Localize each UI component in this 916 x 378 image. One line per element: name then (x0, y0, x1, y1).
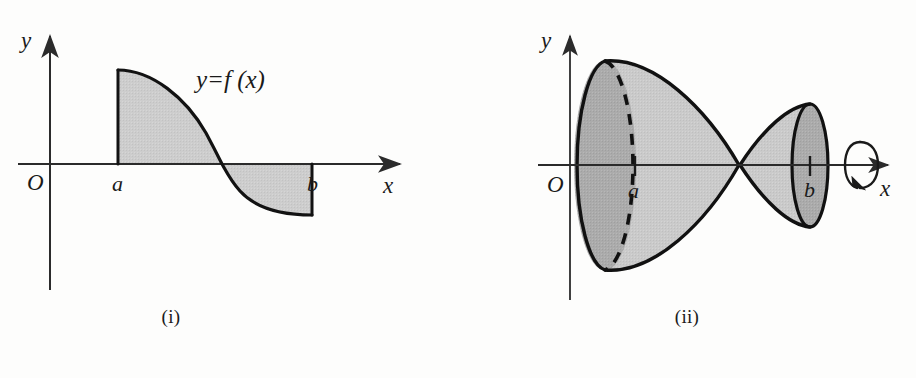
x-tick-label-a: a (112, 171, 123, 196)
panel-figure-i: y O x a b y=f (x) (i) (0, 0, 458, 378)
curve-equation-label: y=f (x) (193, 66, 265, 94)
panel-figure-ii: y O x a b (ii) (458, 0, 916, 378)
figure-page: y O x a b y=f (x) (i) (0, 0, 916, 378)
x-tick-label-b: b (307, 171, 318, 196)
x-tick-label-b: b (804, 177, 815, 202)
caption-panel-ii: (ii) (458, 306, 916, 328)
origin-label: O (27, 170, 44, 195)
origin-label: O (547, 172, 564, 197)
x-tick-label-a: a (628, 178, 639, 203)
caption-panel-i: (i) (0, 306, 400, 328)
y-axis-label: y (19, 28, 32, 53)
x-axis-label: x (382, 173, 394, 198)
y-axis-label: y (539, 28, 552, 53)
x-axis-label: x (879, 176, 891, 201)
